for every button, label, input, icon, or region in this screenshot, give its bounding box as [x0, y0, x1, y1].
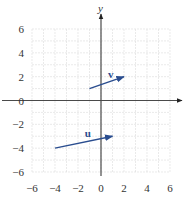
- x-tick-label: −2: [72, 182, 84, 194]
- tick-labels: −6−4−202466420−2−4−6: [12, 23, 173, 194]
- vector-label-u: u: [85, 127, 91, 139]
- y-axis-label: y: [97, 2, 103, 14]
- y-tick-label: −6: [12, 166, 24, 178]
- x-tick-label: 0: [98, 182, 104, 194]
- axes: [2, 14, 182, 176]
- y-tick-label: −2: [12, 118, 24, 130]
- vector-label-v: v: [108, 68, 114, 80]
- x-tick-label: 4: [144, 182, 150, 194]
- x-tick-label: −4: [49, 182, 61, 194]
- vector-v: [90, 77, 125, 89]
- y-tick-label: 0: [19, 95, 25, 107]
- vector-chart: −6−4−202466420−2−4−6 vu y: [0, 0, 184, 200]
- x-tick-label: 6: [167, 182, 173, 194]
- y-tick-label: 6: [19, 23, 25, 35]
- y-tick-label: 2: [19, 71, 25, 83]
- x-tick-label: 2: [121, 182, 127, 194]
- x-tick-label: −6: [26, 182, 38, 194]
- y-tick-label: 4: [19, 47, 25, 59]
- y-tick-label: −4: [12, 142, 24, 154]
